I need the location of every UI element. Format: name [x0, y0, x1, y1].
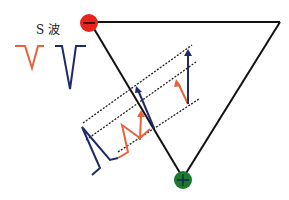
blue-waveform: [82, 127, 118, 175]
lead-triangle-diagram: [0, 0, 289, 200]
blue-arrow-head-icon-2: [184, 49, 192, 56]
positive-electrode-icon: [174, 171, 192, 189]
blue-s-wave-icon: [55, 46, 86, 89]
blue-arrow-head-icon: [135, 86, 142, 93]
negative-electrode-icon: [80, 14, 98, 32]
orange-arrow-head-icon-2: [174, 79, 181, 87]
orange-s-wave-icon: [15, 46, 44, 68]
